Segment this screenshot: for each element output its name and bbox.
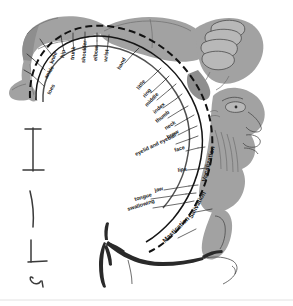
motor-homunculus-figure: toesanklekneehiptrunkshoulderelbowwristh…	[0, 0, 293, 306]
label-lips: lips	[177, 166, 187, 173]
label-elbow: elbow	[92, 45, 99, 61]
label-trunk: trunk	[69, 46, 76, 60]
